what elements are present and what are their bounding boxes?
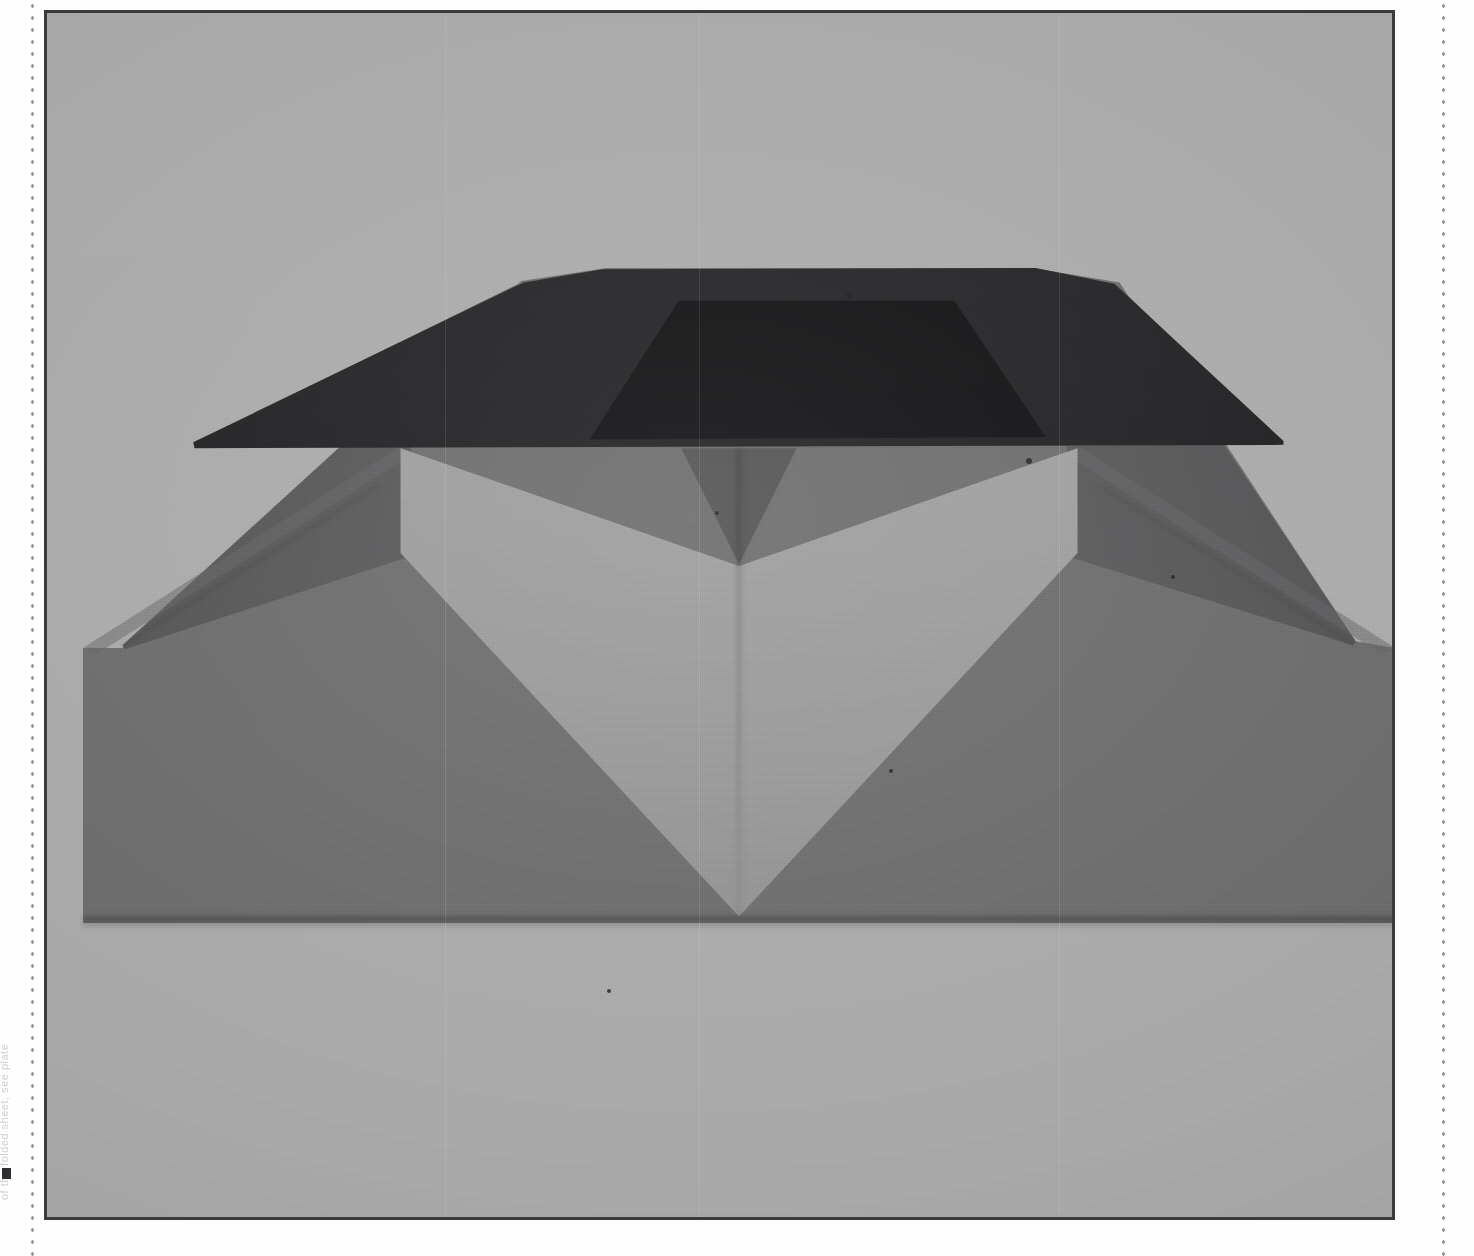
- base-contact-shadow: [83, 916, 1395, 930]
- folded-paper-object: [83, 268, 1395, 923]
- scan-artifact-line: [699, 13, 700, 1217]
- perforation-guide-left: [30, 0, 35, 1256]
- dust-speck: [889, 769, 893, 773]
- dust-speck: [1171, 575, 1175, 579]
- dust-speck: [607, 989, 611, 993]
- dust-speck: [846, 292, 852, 298]
- photographic-plate: [44, 10, 1395, 1220]
- scan-artifact-line: [1059, 13, 1060, 1217]
- heart-centre-crease: [736, 448, 743, 916]
- scan-artifact-line: [445, 13, 446, 1217]
- perforation-guide-right: [1441, 0, 1446, 1256]
- margin-register-mark: [2, 1168, 11, 1179]
- dust-speck: [1026, 458, 1032, 464]
- page-canvas: of the folded sheet, see plate: [0, 0, 1474, 1256]
- dust-speck: [715, 511, 719, 515]
